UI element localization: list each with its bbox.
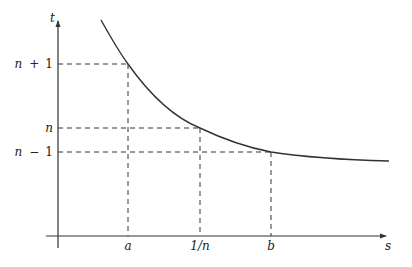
guide-lines — [58, 64, 271, 236]
x-axis-label: s — [385, 239, 391, 253]
diagram-figure: t s n + 1 n n − 1 a 1/n b — [0, 0, 412, 267]
decreasing-curve — [101, 20, 389, 161]
x-tick-b: b — [267, 239, 275, 253]
y-axis-label: t — [50, 11, 55, 25]
y-tick-n-minus-1: n − 1 — [15, 142, 53, 159]
y-tick-n-plus-1: n + 1 — [15, 54, 53, 71]
x-tick-1-over-n: 1/n — [190, 239, 209, 253]
diagram-canvas: t s n + 1 n n − 1 a 1/n b — [0, 0, 412, 267]
x-tick-a: a — [124, 239, 131, 253]
y-tick-n: n — [45, 121, 53, 135]
